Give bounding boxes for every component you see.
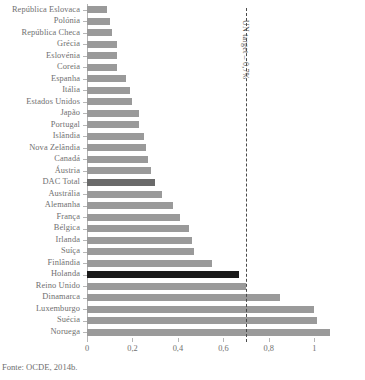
bar [87, 214, 180, 221]
y-axis-category-labels: República EslovacaPolóniaRepública Checa… [0, 4, 83, 338]
bar [87, 133, 144, 140]
y-axis-label: Espanha [0, 73, 83, 85]
plot-area [87, 4, 337, 338]
bar [87, 156, 148, 163]
bar-row [87, 85, 337, 97]
x-axis-tick [132, 338, 133, 342]
y-axis-label: Coreia [0, 62, 83, 74]
y-axis-label: Polónia [0, 16, 83, 28]
y-axis-label: Noruega [0, 326, 83, 338]
x-axis: 00,20,40,60,81 [87, 338, 337, 339]
bar-row [87, 303, 337, 315]
bar [87, 248, 194, 255]
bar-row [87, 154, 337, 166]
y-axis-label: Grécia [0, 39, 83, 51]
bar-row [87, 39, 337, 51]
bar [87, 179, 155, 186]
bar [87, 64, 117, 71]
bar [87, 110, 139, 117]
bar [87, 260, 212, 267]
x-axis-tick-label: 0,4 [173, 344, 183, 353]
bar [87, 29, 112, 36]
bar-row [87, 200, 337, 212]
y-axis-label: França [0, 211, 83, 223]
y-axis-label: Nova Zelândia [0, 142, 83, 154]
y-axis-label: Alemanha [0, 200, 83, 212]
x-axis-tick [314, 338, 315, 342]
bar-row [87, 257, 337, 269]
bar-row [87, 142, 337, 154]
bar-row [87, 62, 337, 74]
x-axis-tick-label: 0,6 [218, 344, 228, 353]
bar-row [87, 211, 337, 223]
y-axis-label: República Eslovaca [0, 4, 83, 16]
bar [87, 329, 330, 336]
bar-row [87, 27, 337, 39]
y-axis-label: Luxemburgo [0, 303, 83, 315]
x-axis-tick [178, 338, 179, 342]
bar [87, 98, 132, 105]
bar-row [87, 108, 337, 120]
un-target-label: UN target – 0,7% [241, 20, 250, 80]
bar [87, 202, 173, 209]
y-axis-label: Holanda [0, 269, 83, 281]
y-axis-label: Eslovénia [0, 50, 83, 62]
bar [87, 271, 239, 278]
y-axis-label: Austrália [0, 188, 83, 200]
x-axis-tick [87, 338, 88, 342]
bar [87, 6, 107, 13]
chart-figure: República EslovacaPolóniaRepública Checa… [0, 0, 365, 380]
y-axis-label: Itália [0, 85, 83, 97]
y-axis-label: Dinamarca [0, 292, 83, 304]
bar-row [87, 280, 337, 292]
bar-row [87, 73, 337, 85]
y-axis-label: Reino Unido [0, 280, 83, 292]
bar [87, 306, 314, 313]
bar [87, 87, 130, 94]
bar-row [87, 315, 337, 327]
x-axis-tick-label: 0,8 [264, 344, 274, 353]
bar [87, 52, 117, 59]
bar-row [87, 223, 337, 235]
x-axis-tick-label: 0,2 [127, 344, 137, 353]
bar-row [87, 4, 337, 16]
bar [87, 41, 117, 48]
bar-row [87, 269, 337, 281]
x-axis-tick-label: 0 [85, 344, 89, 353]
source-note: Fonte: OCDE, 2014b. [2, 362, 77, 372]
bar-row [87, 234, 337, 246]
y-axis-label: Suíça [0, 246, 83, 258]
bar [87, 18, 110, 25]
y-axis-label: Canadá [0, 154, 83, 166]
y-axis-label: Portugal [0, 119, 83, 131]
bar-row [87, 16, 337, 28]
x-axis-tick-label: 1 [312, 344, 316, 353]
y-axis-label: Estados Unidos [0, 96, 83, 108]
x-axis-tick [269, 338, 270, 342]
bar-row [87, 177, 337, 189]
y-axis-label: Bélgica [0, 223, 83, 235]
bar [87, 294, 280, 301]
y-axis-label: Finlândia [0, 257, 83, 269]
bar [87, 167, 151, 174]
bar-rows [87, 4, 337, 338]
bar [87, 283, 246, 290]
y-axis-label: Japão [0, 108, 83, 120]
bar-row [87, 188, 337, 200]
y-axis-label: Islândia [0, 131, 83, 143]
bar-row [87, 96, 337, 108]
bar [87, 144, 146, 151]
bar-row [87, 165, 337, 177]
y-axis-label: República Checa [0, 27, 83, 39]
y-axis-label: Irlanda [0, 234, 83, 246]
y-axis-label: Áustria [0, 165, 83, 177]
bar [87, 317, 317, 324]
bar-row [87, 131, 337, 143]
bar-row [87, 326, 337, 338]
bar [87, 237, 192, 244]
bar [87, 121, 139, 128]
y-axis-label: Suécia [0, 315, 83, 327]
bar [87, 225, 189, 232]
bar-row [87, 50, 337, 62]
y-axis-label: DAC Total [0, 177, 83, 189]
